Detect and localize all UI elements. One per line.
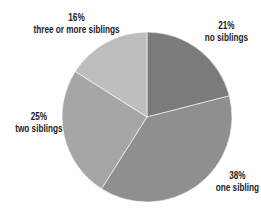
label-two-siblings-pct: 25% [15, 111, 62, 123]
label-three-plus-pct: 16% [33, 12, 119, 24]
label-one-sibling-text: one sibling [216, 182, 259, 194]
label-three-plus: 16% three or more siblings [33, 12, 119, 36]
label-one-sibling-pct: 38% [216, 170, 259, 182]
label-two-siblings: 25% two siblings [15, 111, 62, 135]
label-no-siblings-text: no siblings [205, 32, 248, 44]
label-no-siblings: 21% no siblings [205, 20, 248, 44]
label-no-siblings-pct: 21% [205, 20, 248, 32]
label-one-sibling: 38% one sibling [216, 170, 259, 194]
label-two-siblings-text: two siblings [15, 123, 62, 135]
label-three-plus-text: three or more siblings [33, 24, 119, 36]
